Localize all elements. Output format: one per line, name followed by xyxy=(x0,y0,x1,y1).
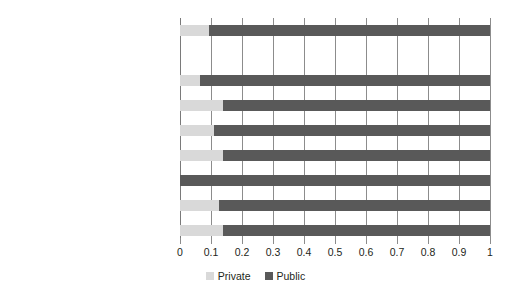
x-tick-label: 0.3 xyxy=(266,246,281,258)
x-tick-label: 0.4 xyxy=(297,246,312,258)
bar-row: World xyxy=(180,25,490,36)
chart-legend: PrivatePublic xyxy=(0,270,511,282)
bar-segment-private xyxy=(180,200,219,211)
bar-segment-private xyxy=(180,225,223,236)
bar-segment-private xyxy=(180,75,200,86)
stacked-bar-chart: WorldEast AsiaEurope and Central AsiaLat… xyxy=(0,0,511,294)
x-axis: 00.10.20.30.40.50.60.70.80.91 xyxy=(180,238,490,239)
legend-swatch-icon xyxy=(265,272,273,280)
bar-segment-private xyxy=(180,150,223,161)
bar-rows: WorldEast AsiaEurope and Central AsiaLat… xyxy=(180,18,490,238)
bar-row: South Asia xyxy=(180,175,490,186)
x-tick-label: 0.6 xyxy=(359,246,374,258)
x-tick-label: 0.2 xyxy=(235,246,250,258)
x-tick xyxy=(211,238,212,244)
bar-segment-public xyxy=(223,225,490,236)
plot-area: WorldEast AsiaEurope and Central AsiaLat… xyxy=(180,18,490,238)
bar-row: Europe and Central Asia xyxy=(180,100,490,111)
legend-item: Public xyxy=(265,270,306,282)
x-tick xyxy=(366,238,367,244)
bar-segment-private xyxy=(180,125,214,136)
legend-swatch-icon xyxy=(206,272,214,280)
x-tick-label: 0.9 xyxy=(452,246,467,258)
bar-segment-public xyxy=(223,100,490,111)
legend-item: Private xyxy=(206,270,251,282)
bar-segment-public xyxy=(180,175,490,186)
bar-row: Middle East and Northern Africa xyxy=(180,150,490,161)
x-tick xyxy=(304,238,305,244)
x-tick xyxy=(335,238,336,244)
x-tick xyxy=(459,238,460,244)
x-tick xyxy=(428,238,429,244)
legend-label: Private xyxy=(218,270,251,282)
x-tick-label: 0 xyxy=(177,246,183,258)
gridline-1 xyxy=(490,18,491,238)
x-tick-label: 0.7 xyxy=(390,246,405,258)
bar-segment-private xyxy=(180,25,209,36)
bar-segment-public xyxy=(223,150,490,161)
x-tick-label: 0.5 xyxy=(328,246,343,258)
x-tick xyxy=(397,238,398,244)
bar-row: Latin America xyxy=(180,125,490,136)
x-tick-label: 0.8 xyxy=(421,246,436,258)
x-tick xyxy=(180,238,181,244)
bar-segment-public xyxy=(214,125,490,136)
bar-segment-public xyxy=(219,200,490,211)
x-tick-label: 0.1 xyxy=(204,246,219,258)
x-tick xyxy=(242,238,243,244)
x-tick xyxy=(490,238,491,244)
bar-row: High income countries xyxy=(180,225,490,236)
bar-segment-public xyxy=(209,25,490,36)
bar-segment-private xyxy=(180,100,223,111)
legend-label: Public xyxy=(277,270,306,282)
bar-row: Sub-Saharan Africa xyxy=(180,200,490,211)
bar-row: East Asia xyxy=(180,75,490,86)
x-tick-label: 1 xyxy=(487,246,493,258)
x-tick xyxy=(273,238,274,244)
bar-segment-public xyxy=(200,75,490,86)
